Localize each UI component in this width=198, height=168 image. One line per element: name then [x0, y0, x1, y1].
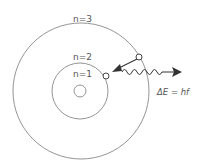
bohr-diagram — [0, 0, 198, 168]
label-n3: n=3 — [73, 15, 92, 24]
photon-wave — [122, 70, 175, 75]
label-n2: n=2 — [73, 53, 92, 62]
orbit-n3 — [13, 23, 149, 159]
nucleus — [74, 85, 86, 97]
transition-arrowhead — [112, 64, 122, 72]
energy-equation: ΔE = hf — [157, 87, 189, 97]
label-n1: n=1 — [73, 70, 92, 79]
electron-final — [103, 73, 109, 79]
